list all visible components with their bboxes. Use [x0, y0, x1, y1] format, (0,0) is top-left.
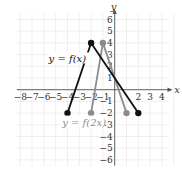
x-tick-label: 3 — [147, 92, 153, 102]
data-point — [100, 40, 106, 46]
y-tick-label: −6 — [99, 155, 113, 165]
y-tick-label: 5 — [107, 26, 113, 36]
x-axis-arrow-icon — [168, 88, 173, 92]
x-tick-label: 2 — [135, 92, 141, 102]
f-of-2x-label: y = f(2x) — [61, 117, 106, 128]
y-tick-label: −4 — [99, 132, 113, 142]
x-axis-label: x — [174, 84, 180, 95]
data-point — [88, 110, 94, 116]
data-point — [88, 40, 94, 46]
graph: xy−8−7−6−5−4−3−2−1234654321−1−2−3−4−5−6y… — [0, 0, 182, 171]
data-point — [123, 110, 129, 116]
y-tick-label: 6 — [107, 15, 113, 25]
x-tick-label: 4 — [159, 92, 165, 102]
data-point — [64, 110, 70, 116]
y-axis-label: y — [110, 1, 117, 12]
y-tick-label: −5 — [99, 143, 113, 153]
data-point — [135, 110, 141, 116]
y-tick-label: −1 — [99, 96, 112, 106]
f-of-x-label: y = f(x) — [48, 53, 87, 64]
y-tick-label: 4 — [107, 38, 113, 48]
